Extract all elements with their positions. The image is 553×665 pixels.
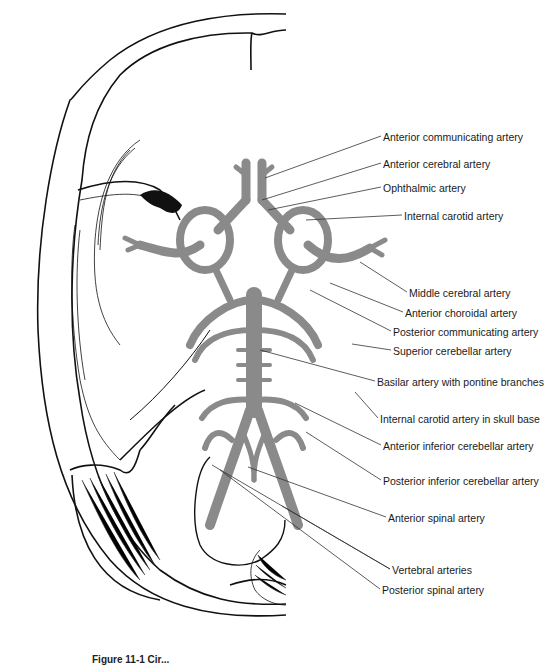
label-anterior-communicating-artery: Anterior communicating artery <box>383 131 523 143</box>
label-posterior-inferior-cerebellar-artery: Posterior inferior cerebellar artery <box>383 475 539 487</box>
label-vertebral-arteries: Vertebral arteries <box>392 564 472 576</box>
label-posterior-spinal-artery: Posterior spinal artery <box>382 584 484 596</box>
sphenoid-ridge <box>140 190 182 213</box>
label-ophthalmic-artery: Ophthalmic artery <box>383 182 466 194</box>
label-anterior-spinal-artery: Anterior spinal artery <box>388 512 485 524</box>
label-posterior-communicating-artery: Posterior communicating artery <box>393 326 538 338</box>
label-anterior-cerebral-artery: Anterior cerebral artery <box>383 158 490 170</box>
label-middle-cerebral-artery: Middle cerebral artery <box>409 287 511 299</box>
label-anterior-inferior-cerebellar-artery: Anterior inferior cerebellar artery <box>383 440 534 452</box>
label-anterior-choroidal-artery: Anterior choroidal artery <box>405 307 517 319</box>
label-basilar-artery: Basilar artery with pontine branches <box>377 376 544 388</box>
label-superior-cerebellar-artery: Superior cerebellar artery <box>393 345 511 357</box>
label-internal-carotid-artery: Internal carotid artery <box>404 210 503 222</box>
label-internal-carotid-skull-base: Internal carotid artery in skull base <box>380 413 540 425</box>
arteries <box>125 163 385 525</box>
figure-caption: Figure 11-1 Cir... <box>92 654 169 665</box>
